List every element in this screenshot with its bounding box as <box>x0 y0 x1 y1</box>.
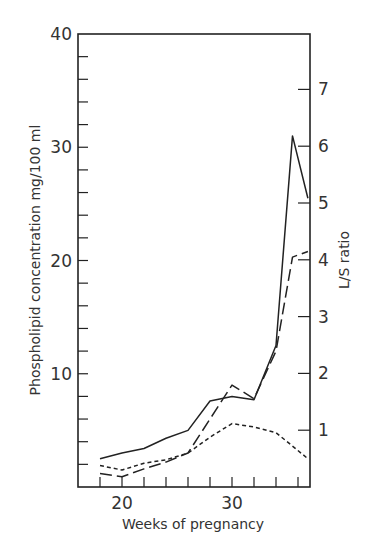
y2-tick-label: 6 <box>318 136 329 156</box>
x-tick-label: 30 <box>221 493 243 513</box>
y2-tick-label: 2 <box>318 363 329 383</box>
y-axis-title: Phospholipid concentration mg/100 ml <box>27 125 43 396</box>
series-line <box>100 136 308 459</box>
y-tick-label: 10 <box>50 364 72 384</box>
y2-tick-label: 4 <box>318 250 329 270</box>
data-series <box>100 136 308 477</box>
y-axis-right: 1234567 <box>298 79 329 440</box>
y2-axis-title: L/S ratio <box>336 231 352 289</box>
y2-tick-label: 5 <box>318 193 329 213</box>
y2-tick-label: 7 <box>318 79 329 99</box>
series-line <box>100 424 308 470</box>
plot-border <box>78 34 310 487</box>
y-tick-label: 40 <box>50 24 72 44</box>
series-line <box>100 251 308 476</box>
x-tick-label: 20 <box>111 493 133 513</box>
x-axis-title: Weeks of pregnancy <box>122 516 264 532</box>
plot-frame <box>78 34 310 487</box>
line-chart: 2030 10203040 1234567 Weeks of pregnancy… <box>0 0 366 555</box>
y2-tick-label: 3 <box>318 307 329 327</box>
y2-tick-label: 1 <box>318 420 329 440</box>
y-tick-label: 20 <box>50 251 72 271</box>
x-axis: 2030 <box>100 477 298 513</box>
y-axis-left: 10203040 <box>50 24 88 464</box>
y-tick-label: 30 <box>50 137 72 157</box>
